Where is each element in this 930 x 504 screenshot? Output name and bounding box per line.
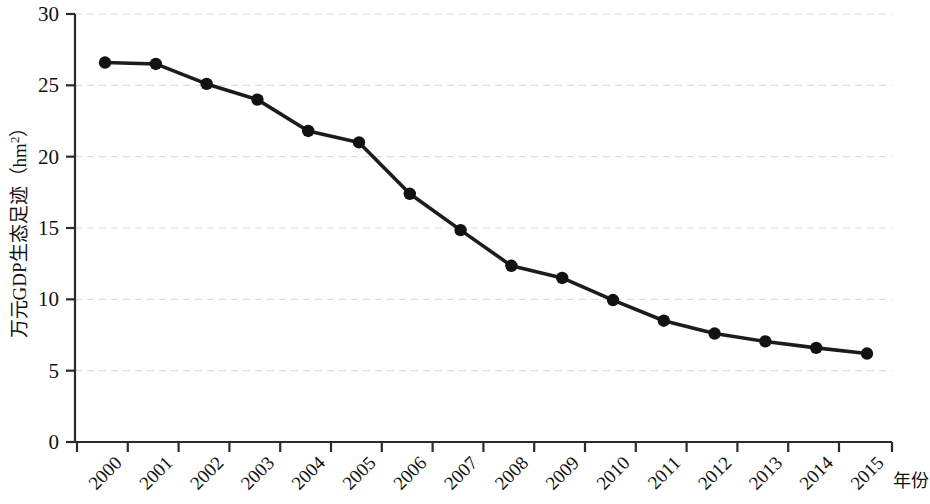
x-tick-label: 2004 [287, 452, 329, 494]
y-axis-title-main: 万元GDP生态足迹（hm [9, 143, 30, 339]
data-point [708, 327, 720, 339]
data-point [302, 125, 314, 137]
data-point [505, 260, 517, 272]
x-tick-label: 2014 [795, 452, 837, 494]
x-tick-label: 2006 [389, 452, 431, 494]
data-point [454, 224, 466, 236]
y-tick-label: 0 [49, 430, 60, 454]
data-point [200, 78, 212, 90]
x-tick-label: 2010 [592, 452, 634, 494]
data-points-group [99, 56, 873, 359]
x-ticks-group [77, 442, 839, 452]
x-tick-label: 2007 [440, 452, 482, 494]
x-tick-label: 2000 [84, 452, 126, 494]
data-point [810, 342, 822, 354]
x-tick-label: 2013 [745, 452, 787, 494]
x-tick-label: 2001 [135, 452, 177, 494]
x-tick-label: 2003 [237, 452, 279, 494]
x-tick-label: 2012 [694, 452, 736, 494]
x-tick-label: 2011 [643, 452, 684, 493]
x-tick-label: 2005 [338, 452, 380, 494]
data-point [353, 136, 365, 148]
data-point [404, 188, 416, 200]
y-tick-label: 5 [49, 359, 60, 383]
data-point [99, 56, 111, 68]
x-tick-label: 2002 [186, 452, 228, 494]
data-point [556, 272, 568, 284]
x-tick-label: 2008 [491, 452, 533, 494]
x-axis-title: 年份 [893, 471, 929, 491]
axes-group [67, 14, 892, 452]
y-axis-title-tail: ） [9, 118, 30, 137]
data-series-line [105, 63, 867, 354]
y-tick-label: 30 [38, 2, 59, 26]
y-ticks-group [66, 14, 75, 442]
line-chart: 051015202530 200020012002200320042005200… [0, 0, 930, 504]
data-point [861, 347, 873, 359]
data-point [658, 315, 670, 327]
gridlines-group [75, 14, 892, 371]
data-point [251, 93, 263, 105]
axis-titles-group: 万元GDP生态足迹（hm2） 年份 [7, 118, 930, 491]
x-tick-label: 2009 [541, 452, 583, 494]
data-point [607, 294, 619, 306]
y-tick-label: 15 [38, 216, 59, 240]
y-tick-labels-group: 051015202530 [38, 2, 59, 454]
data-point [759, 335, 771, 347]
y-tick-label: 20 [38, 145, 59, 169]
x-tick-label: 2015 [846, 452, 888, 494]
data-point [150, 58, 162, 70]
y-tick-label: 10 [38, 287, 59, 311]
y-tick-label: 25 [38, 73, 59, 97]
chart-canvas: 051015202530 200020012002200320042005200… [0, 0, 930, 504]
x-tick-labels-group: 2000200120022003200420052006200720082009… [84, 452, 888, 494]
y-axis-title: 万元GDP生态足迹（hm2） [7, 118, 31, 339]
